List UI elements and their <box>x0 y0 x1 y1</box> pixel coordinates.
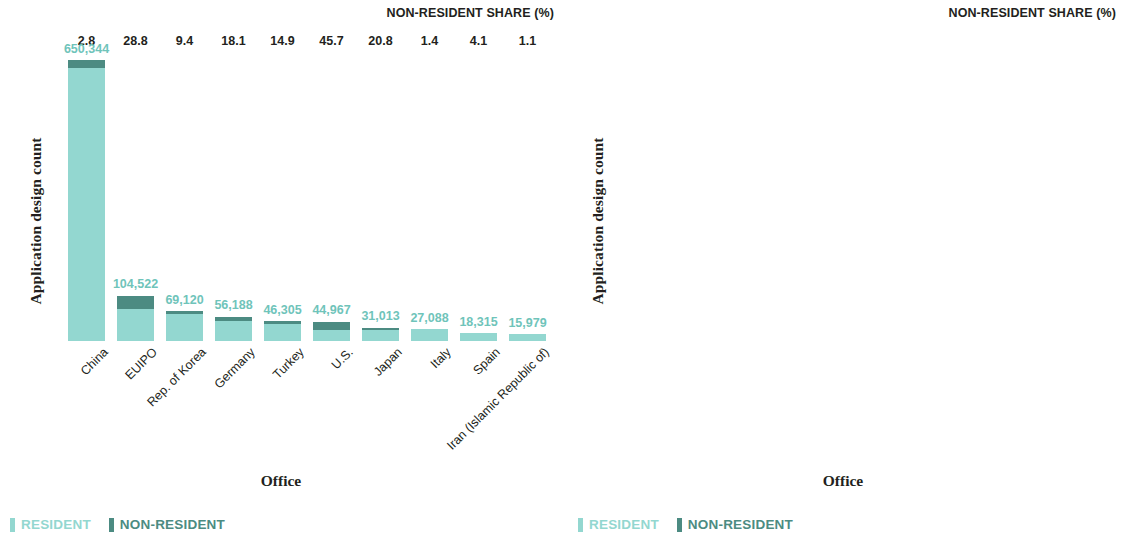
x-axis-tick-label: Italy <box>427 345 453 371</box>
nonresident-share-values: 2.828.89.418.114.945.720.81.44.11.1 <box>62 34 552 48</box>
bar-segment-resident[interactable] <box>264 324 301 341</box>
bar-segment-resident[interactable] <box>362 330 399 341</box>
stacked-bar[interactable] <box>215 317 252 341</box>
stacked-bar[interactable] <box>509 334 546 341</box>
legend-item-resident: RESIDENT <box>10 517 91 532</box>
chart-panel-right: NON-RESIDENT SHARE (%) 7.365.636.712.938… <box>562 0 1124 542</box>
stacked-bar[interactable] <box>362 328 399 341</box>
x-axis-tick-label: Spain <box>470 345 503 378</box>
stacked-bar[interactable] <box>313 322 350 341</box>
bar-value-label: 44,967 <box>312 304 350 317</box>
bar-segment-nonresident[interactable] <box>117 296 154 309</box>
y-axis-label: Application design count <box>27 101 45 341</box>
nonresident-share-header: NON-RESIDENT SHARE (%) <box>387 6 554 20</box>
nonresident-share-value: 20.8 <box>356 34 405 48</box>
legend: RESIDENT NON-RESIDENT <box>10 517 225 532</box>
bar-segment-resident[interactable] <box>166 314 203 341</box>
stacked-bar[interactable] <box>117 296 154 341</box>
bar-segment-resident[interactable] <box>509 334 546 341</box>
bar-value-label: 31,013 <box>361 310 399 323</box>
resident-swatch-icon <box>10 518 15 532</box>
bar-segment-resident[interactable] <box>68 68 105 341</box>
stacked-bar[interactable] <box>264 321 301 341</box>
x-axis-tick-label: Germany <box>211 345 257 391</box>
nonresident-share-value: 1.4 <box>405 34 454 48</box>
legend-label-resident: RESIDENT <box>589 517 659 532</box>
legend-item-nonresident: NON-RESIDENT <box>677 517 793 532</box>
bar-group[interactable]: 18,315 <box>454 60 503 341</box>
legend-label-nonresident: NON-RESIDENT <box>120 517 225 532</box>
bar-value-label: 27,088 <box>410 312 448 325</box>
legend-label-nonresident: NON-RESIDENT <box>688 517 793 532</box>
bar-segment-nonresident[interactable] <box>313 322 350 331</box>
bar-value-label: 15,979 <box>508 317 546 330</box>
nonresident-swatch-icon <box>109 518 114 532</box>
stacked-bar[interactable] <box>411 329 448 341</box>
stacked-bar[interactable] <box>68 60 105 341</box>
bar-group[interactable]: 15,979 <box>503 60 552 341</box>
nonresident-share-value: 9.4 <box>160 34 209 48</box>
resident-swatch-icon <box>578 518 583 532</box>
bar-segment-resident[interactable] <box>411 329 448 341</box>
bar-group[interactable]: 650,344 <box>62 60 111 341</box>
bar-group[interactable]: 69,120 <box>160 60 209 341</box>
stacked-bar-chart-pair: NON-RESIDENT SHARE (%) 2.828.89.418.114.… <box>0 0 1124 542</box>
x-axis-tick-label: U.S. <box>328 345 355 372</box>
nonresident-share-value: 28.8 <box>111 34 160 48</box>
bar-value-label: 18,315 <box>459 316 497 329</box>
bar-value-label: 104,522 <box>113 278 158 291</box>
x-axis-tick-label: Japan <box>370 345 404 379</box>
bar-group[interactable]: 44,967 <box>307 60 356 341</box>
legend-label-resident: RESIDENT <box>21 517 91 532</box>
bar-value-label: 69,120 <box>165 294 203 307</box>
bar-group[interactable]: 56,188 <box>209 60 258 341</box>
x-axis-label: Office <box>0 472 562 490</box>
bar-segment-resident[interactable] <box>215 321 252 341</box>
bar-value-label: 46,305 <box>263 304 301 317</box>
legend-item-resident: RESIDENT <box>578 517 659 532</box>
bar-group[interactable]: 46,305 <box>258 60 307 341</box>
legend-item-nonresident: NON-RESIDENT <box>109 517 225 532</box>
x-axis-tick-label: Iran (Islamic Republic of) <box>444 345 552 453</box>
nonresident-share-value: 1.1 <box>503 34 552 48</box>
nonresident-swatch-icon <box>677 518 682 532</box>
bar-group[interactable]: 104,522 <box>111 60 160 341</box>
x-axis-tick-label: EUIPO <box>122 345 159 382</box>
nonresident-share-header: NON-RESIDENT SHARE (%) <box>949 6 1116 20</box>
bar-group[interactable]: 31,013 <box>356 60 405 341</box>
nonresident-share-value: 45.7 <box>307 34 356 48</box>
bar-group[interactable]: 27,088 <box>405 60 454 341</box>
bar-value-label: 650,344 <box>64 43 109 56</box>
nonresident-share-value: 14.9 <box>258 34 307 48</box>
plot-area: 650,344104,52269,12056,18846,30544,96731… <box>62 60 552 341</box>
stacked-bar[interactable] <box>460 333 497 341</box>
y-axis-label: Application design count <box>589 101 607 341</box>
chart-panel-left: NON-RESIDENT SHARE (%) 2.828.89.418.114.… <box>0 0 562 542</box>
bar-segment-resident[interactable] <box>460 333 497 341</box>
bar-value-label: 56,188 <box>214 299 252 312</box>
x-axis-tick-label: China <box>77 345 110 378</box>
nonresident-share-value: 4.1 <box>454 34 503 48</box>
bar-segment-resident[interactable] <box>313 330 350 341</box>
stacked-bar[interactable] <box>166 311 203 341</box>
x-axis-tick-label: Turkey <box>270 345 307 382</box>
x-axis-label: Office <box>562 472 1124 490</box>
bar-segment-resident[interactable] <box>117 309 154 341</box>
legend: RESIDENT NON-RESIDENT <box>578 517 793 532</box>
nonresident-share-value: 18.1 <box>209 34 258 48</box>
bar-segment-nonresident[interactable] <box>68 60 105 68</box>
